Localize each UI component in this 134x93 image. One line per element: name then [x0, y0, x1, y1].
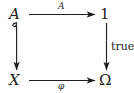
arrow-label-right: true [111, 41, 134, 52]
commutative-diagram: A 1 X Ω A true φ [0, 0, 134, 93]
node-bottom-right: Ω [99, 73, 111, 88]
node-bottom-left: X [9, 73, 20, 88]
node-top-left: A [9, 7, 20, 22]
arrow-label-bottom: φ [58, 82, 64, 91]
arrow-label-top: A [58, 2, 65, 11]
node-top-right: 1 [100, 7, 110, 22]
